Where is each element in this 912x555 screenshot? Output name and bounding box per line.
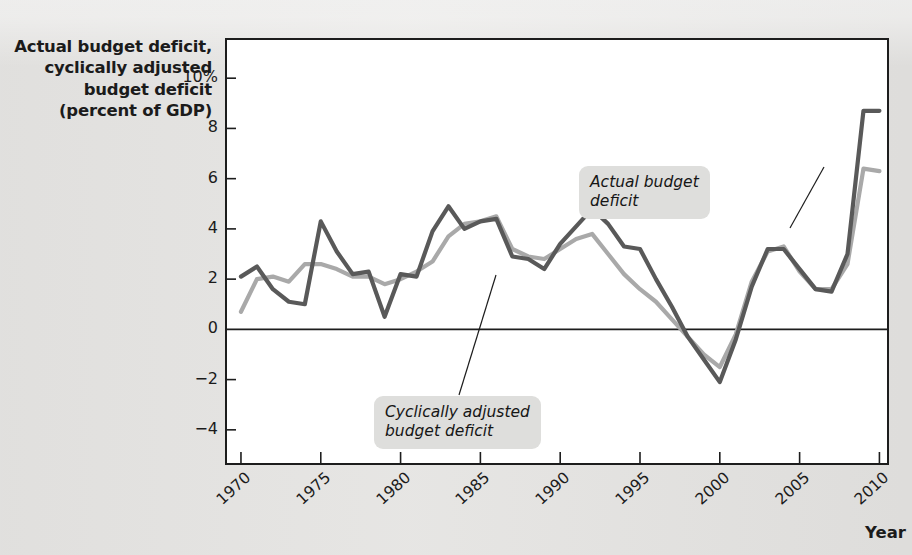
y-tick-label: 0 — [148, 318, 218, 337]
callout-actual-budget-deficit: Actual budget deficit — [579, 166, 710, 219]
x-tick-label: 2010 — [851, 469, 892, 509]
y-tick-label: 10% — [148, 67, 218, 86]
x-tick-label: 1980 — [373, 469, 414, 509]
callout-leader-actual — [790, 167, 824, 228]
x-tick-label: 1995 — [612, 469, 653, 509]
y-tick-label: −2 — [148, 369, 218, 388]
y-tick-label: 8 — [148, 117, 218, 136]
x-axis-title: Year — [865, 523, 906, 542]
y-tick-label: −4 — [148, 419, 218, 438]
x-tick-label: 2005 — [772, 469, 813, 509]
y-axis-title-line-1: Actual budget deficit, — [0, 36, 212, 57]
series-line-cyclically-adjusted-budget-deficit — [241, 169, 879, 367]
plot-canvas — [225, 38, 889, 465]
callout-leader-cyclical — [459, 275, 496, 395]
x-tick-label: 1990 — [532, 469, 573, 509]
y-tick-label: 2 — [148, 268, 218, 287]
x-tick-label: 2000 — [692, 469, 733, 509]
x-tick-label: 1970 — [213, 469, 254, 509]
x-tick-label: 1985 — [452, 469, 493, 509]
figure-budget-deficit-chart: Actual budget deficit, cyclically adjust… — [0, 0, 912, 555]
x-tick-label: 1975 — [293, 469, 334, 509]
y-tick-label: 4 — [148, 218, 218, 237]
callout-cyclically-adjusted-budget-deficit: Cyclically adjusted budget deficit — [374, 396, 541, 449]
y-tick-label: 6 — [148, 168, 218, 187]
